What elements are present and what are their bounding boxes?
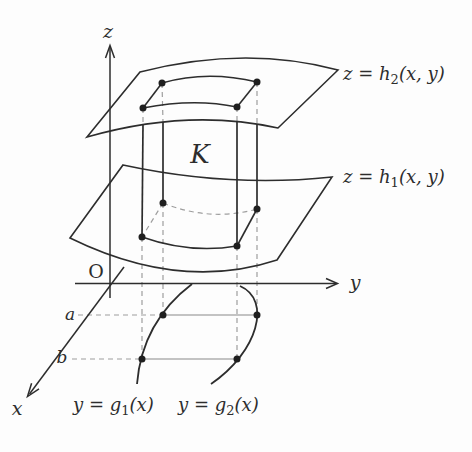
lower-surface-eq-main: z = h [342, 166, 391, 187]
lower-patch-right-edge [237, 209, 257, 246]
a-level-label: a [65, 304, 75, 324]
upper-surface-equation: z = h2(x, y) [342, 63, 445, 87]
vertical-edge-front-left [142, 124, 143, 237]
g1-eq-main: y = g [72, 394, 121, 415]
upper-patch-right-edge [237, 82, 257, 107]
g2-curve-equation: y = g2(x) [177, 394, 259, 418]
g1-eq-subscript: 1 [121, 403, 129, 418]
region-k-label: K [189, 139, 211, 169]
z-axis-label: z [102, 20, 114, 42]
dot-plane-b-right [234, 356, 241, 363]
origin-label: O [88, 260, 104, 282]
upper-surface-eq-main: z = h [342, 63, 391, 84]
lower-surface-eq-subscript: 1 [391, 175, 399, 190]
upper-surface-eq-args: (x, y) [399, 63, 445, 84]
g1-curve [137, 284, 192, 384]
solid-region-diagram: z y x O K a b z = h2(x, y) z = h1(x, y) … [0, 0, 472, 452]
lower-patch-front-edge [142, 237, 237, 249]
g2-eq-subscript: 2 [226, 403, 234, 418]
upper-surface-outline [87, 58, 338, 137]
lower-surface-eq-args: (x, y) [399, 166, 445, 187]
g1-curve-equation: y = g1(x) [72, 394, 154, 418]
g2-curve [211, 286, 257, 384]
lower-patch-left-edge [142, 203, 163, 237]
dot-upper-front-left [140, 105, 147, 112]
dot-upper-back-left [159, 80, 166, 87]
y-axis-label: y [349, 271, 361, 293]
g2-eq-args: (x) [235, 394, 259, 415]
corner-dots [139, 79, 261, 363]
upper-patch-left-edge [143, 83, 162, 108]
dot-lower-back-left [160, 200, 167, 207]
hidden-segment-back-left [162, 83, 163, 122]
b-level-label: b [57, 347, 68, 367]
dot-upper-front-right [234, 104, 241, 111]
axes [28, 46, 338, 397]
lower-surface-equation: z = h1(x, y) [342, 166, 445, 190]
upper-surface-eq-subscript: 2 [391, 72, 399, 87]
figure-canvas: z y x O K a b z = h2(x, y) z = h1(x, y) … [0, 0, 472, 452]
dot-plane-b-left [139, 356, 146, 363]
lower-patch-back-edge [163, 203, 257, 214]
dot-lower-front-left [139, 234, 146, 241]
upper-patch-front-edge [143, 103, 237, 108]
plane-boundary-curves [137, 284, 257, 384]
g2-eq-main: y = g [177, 394, 226, 415]
dot-plane-a-left [160, 312, 167, 319]
upper-patch-back-edge [162, 76, 257, 83]
dot-lower-front-right [234, 243, 241, 250]
plane-chords [142, 315, 257, 359]
g1-eq-args: (x) [130, 394, 154, 415]
x-axis-line [30, 267, 125, 394]
dot-plane-a-right [254, 312, 261, 319]
dot-lower-back-right [254, 206, 261, 213]
x-axis-label: x [12, 397, 23, 419]
dot-upper-back-right [254, 79, 261, 86]
